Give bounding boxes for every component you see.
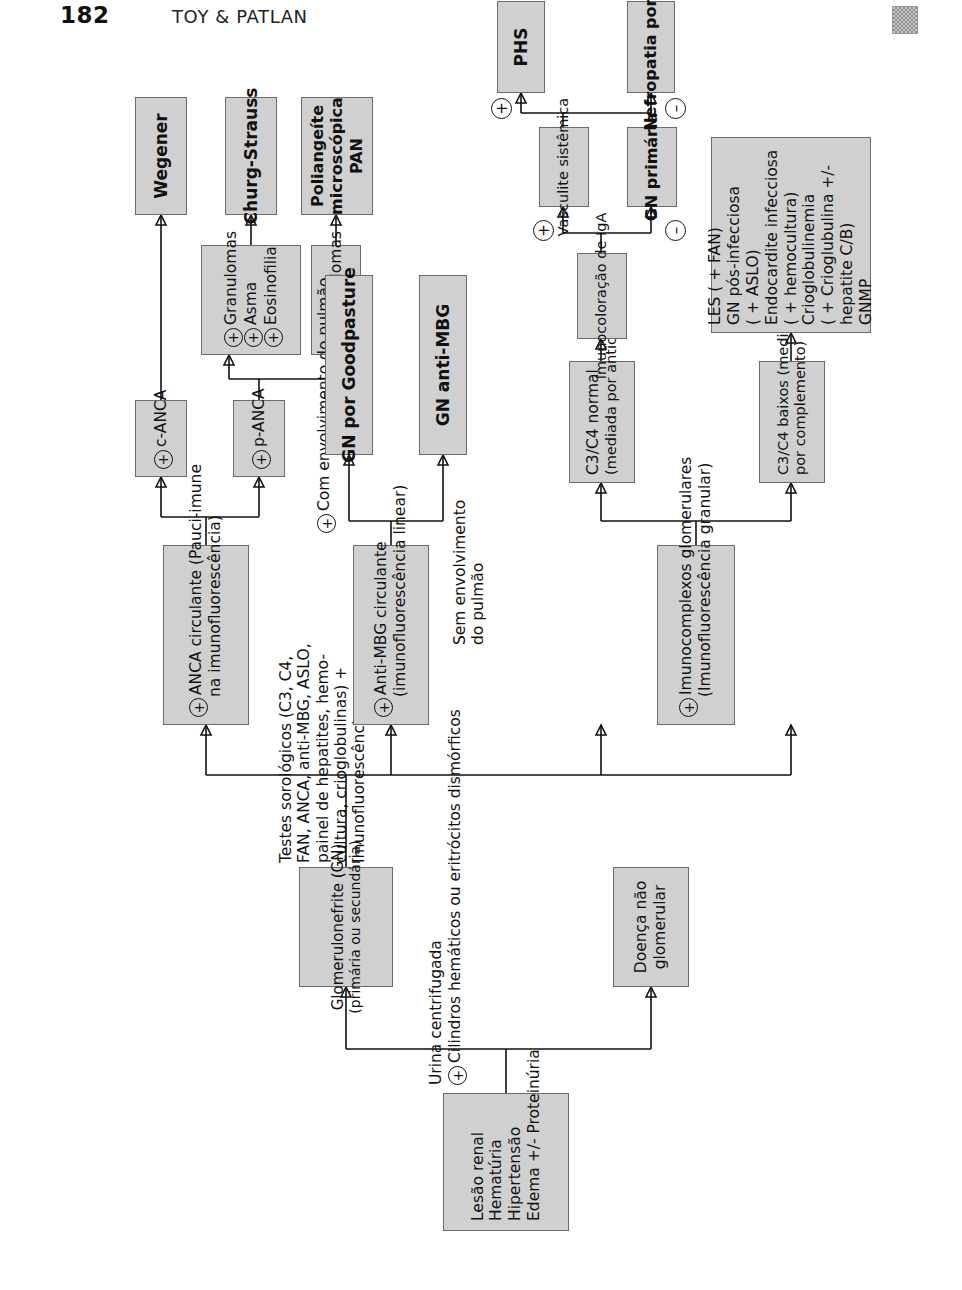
immune-complex-line-2: (Imunofluorescência granular) (696, 553, 715, 697)
node-anti-gbm-circulating: + Anti-MBG circulante (imunofluorescênci… (353, 545, 429, 725)
cause-line-1: LES ( + FAN) (706, 145, 725, 325)
cause-line-9: GNMP (857, 145, 876, 325)
glomerulonephritis-flowchart: Lesão renal Hematúria Hipertensão Edema … (91, 65, 921, 1245)
cause-line-3: ( + ASLO) (744, 145, 763, 325)
c-anca-label: c-ANCA (152, 390, 171, 447)
node-iga-immunostain: Imunocoloração de IgA (577, 253, 627, 339)
granuloma-label-3: Eosinofilia (262, 246, 281, 325)
c3c4-normal-line-1: C3/C4 normal (584, 369, 603, 475)
cause-line-4: Endocardite infecciosa (763, 145, 782, 325)
plus-sign-icon: + (252, 450, 271, 469)
label-lung-involvement-no: Sem envolvimento do pulmão (451, 500, 488, 645)
anca-line-2: na imunofluorescência) (206, 553, 225, 697)
node-wegener: Wegener (135, 97, 187, 215)
presentation-line-2: Hematúria (487, 1103, 506, 1221)
serology-line-1: Testes sorológicos (C3, C4, (277, 643, 295, 863)
gn-subtitle: (primária ou secundária) (347, 840, 364, 1013)
node-granulomas-asthma-eosinophilia: + Granulomas + Asma + Eosinofilia (201, 245, 301, 355)
anti-mbg-line-1: Anti-MBG circulante (372, 541, 391, 695)
urine-test-line-1: Urina centrifugada (427, 709, 445, 1085)
immune-complex-line-1: Imunocomplexos glomerulares (677, 457, 696, 695)
node-p-anca: + p-ANCA (233, 400, 285, 477)
presentation-line-3: Hipertensão (506, 1103, 525, 1221)
immune-complex-line-1-row: + Imunocomplexos glomerulares (677, 553, 696, 717)
pan-line-3: PAN (347, 138, 366, 174)
node-microscopic-polyangiitis: Poliangeíte microscópica PAN (301, 97, 373, 215)
minus-sign-icon: – (665, 98, 686, 119)
node-iga-nephropathy: Nefropatia por IgA (627, 1, 675, 93)
plus-sign-icon: + (374, 698, 393, 717)
checkered-square-icon (892, 6, 918, 34)
node-presentation: Lesão renal Hematúria Hipertensão Edema … (443, 1093, 569, 1231)
churg-strauss-label: Churg-Strauss (241, 88, 261, 225)
node-immune-complexes: + Imunocomplexos glomerulares (Imunofluo… (657, 545, 735, 725)
iga-nephropathy-label: Nefropatia por IgA (641, 0, 660, 131)
plus-sign-icon: + (224, 328, 243, 347)
cause-line-6: Crioglobulinemia (800, 145, 819, 325)
minus-sign-icon: – (665, 220, 686, 241)
node-henoch-schonlein: PHS (497, 1, 545, 93)
c3c4-low-line-1: C3/C4 baixos (mediada (775, 369, 792, 475)
lung-no-line-1: Sem envolvimento (451, 500, 469, 645)
plus-sign-icon: + (317, 514, 336, 533)
label-urine-test: Urina centrifugada + Cilindros hemáticos… (427, 709, 465, 1085)
goodpasture-label: GN por Goodpasture (339, 267, 359, 463)
cause-line-5: ( + hemocultura) (782, 145, 801, 325)
node-gn-primary: GN primária (627, 127, 677, 207)
anti-mbg-line-2: (imunofluorescência linear) (391, 553, 410, 697)
phs-label: PHS (511, 28, 531, 67)
non-glomerular-line-2: glomerular (651, 885, 670, 970)
serology-line-4: cultura, crioglobulinas) + (332, 643, 350, 863)
node-glomerulonephritis: Glomerulonefrite (GN) (primária ou secun… (299, 867, 393, 987)
p-anca-row: + p-ANCA (250, 408, 269, 469)
non-glomerular-line-1: Doença não (632, 881, 651, 974)
plus-sign-icon: + (154, 450, 173, 469)
lung-no-line-2: do pulmão (469, 500, 487, 645)
node-anca-circulating: + ANCA circulante (Pauci-imune na imunof… (163, 545, 249, 725)
cause-line-2: GN pós-infecciosa (725, 145, 744, 325)
plus-sign-icon: + (244, 328, 263, 347)
c3c4-normal-line-2: (mediada por anticorpo) (603, 369, 620, 475)
node-goodpasture: GN por Goodpasture (325, 275, 373, 455)
gn-anti-mbg-label: GN anti-MBG (433, 304, 453, 427)
p-anca-label: p-ANCA (250, 388, 269, 447)
node-low-complement-causes: LES ( + FAN) GN pós-infecciosa ( + ASLO)… (711, 137, 871, 333)
iga-stain-label: Imunocoloração de IgA (593, 213, 610, 380)
page-number: 182 (60, 2, 110, 28)
plus-sign-icon: + (491, 98, 512, 119)
serology-line-2: FAN, ANCA, anti-MBG, ASLO, (295, 643, 313, 863)
granuloma-label-1: Granulomas (222, 231, 241, 325)
cause-line-8: hepatite C/B) (838, 145, 857, 325)
plus-sign-icon: + (679, 698, 698, 717)
plus-sign-icon: + (533, 220, 554, 241)
anca-line-1-row: + ANCA circulante (Pauci-imune (187, 553, 206, 717)
granuloma-row-2: + Asma (242, 253, 261, 347)
presentation-line-4: Edema +/- Proteinúria (525, 1103, 544, 1221)
serology-line-3: painel de hepatites, hemo- (314, 643, 332, 863)
plus-sign-icon: + (189, 698, 208, 717)
node-c3c4-low: C3/C4 baixos (mediada por complemento) (759, 361, 825, 483)
node-systemic-vasculitis: Vasculite sistêmica (539, 127, 589, 207)
granuloma-row-1: + Granulomas (222, 253, 241, 347)
anca-line-1: ANCA circulante (Pauci-imune (187, 464, 206, 695)
node-gn-anti-gbm: GN anti-MBG (419, 275, 467, 455)
gn-title: Glomerulonefrite (GN) (329, 844, 347, 1011)
plus-sign-icon: + (448, 1066, 467, 1085)
c3c4-low-line-2: por complemento) (792, 369, 809, 475)
running-head: TOY & PATLAN (172, 6, 308, 27)
anti-mbg-line-1-row: + Anti-MBG circulante (372, 553, 391, 717)
page-header: 182 TOY & PATLAN (0, 0, 962, 46)
node-churg-strauss: Churg-Strauss (225, 97, 277, 215)
urine-test-line-2: Cilindros hemáticos ou eritrócitos dismó… (446, 709, 464, 1063)
node-non-glomerular: Doença não glomerular (613, 867, 689, 987)
wegener-label: Wegener (151, 113, 171, 198)
pan-line-2: microscópica (327, 97, 346, 215)
granuloma-label-2: Asma (242, 282, 261, 325)
c-anca-row: + c-ANCA (152, 408, 171, 469)
presentation-line-1: Lesão renal (469, 1103, 488, 1221)
systemic-vasculitis-label: Vasculite sistêmica (555, 98, 572, 236)
plus-sign-icon: + (264, 328, 283, 347)
pan-line-1: Poliangeíte (308, 105, 327, 207)
granuloma-row-3: + Eosinofilia (262, 253, 281, 347)
cause-line-7: ( + Crioglubulina +/- (819, 145, 838, 325)
